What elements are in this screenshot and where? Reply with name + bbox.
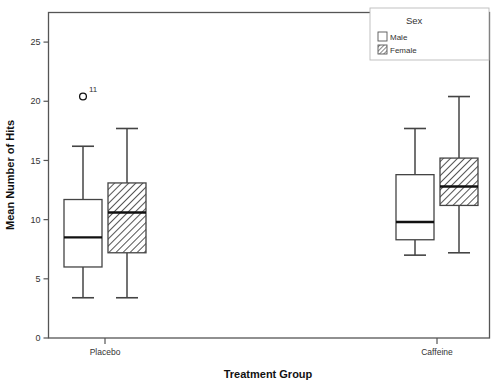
y-tick-label: 15	[30, 156, 40, 166]
box-body	[108, 183, 146, 253]
x-tick-label-placebo: Placebo	[90, 347, 121, 357]
y-tick-label: 5	[35, 274, 40, 284]
legend-label-female: Female	[390, 46, 417, 55]
boxplot-chart: 0510152025 PlaceboCaffeine 11 SexMaleFem…	[0, 0, 499, 388]
y-tick-label: 25	[30, 37, 40, 47]
outlier-label: 11	[89, 85, 98, 94]
y-axis: 0510152025	[30, 37, 48, 343]
y-axis-title: Mean Number of Hits	[4, 120, 16, 230]
x-axis: PlaceboCaffeine	[90, 338, 453, 357]
box-body	[396, 175, 434, 240]
y-tick-label: 10	[30, 215, 40, 225]
y-tick-label: 0	[35, 333, 40, 343]
box-body	[440, 158, 478, 205]
legend-swatch-male	[378, 32, 387, 41]
legend: SexMaleFemale	[370, 8, 489, 60]
y-tick-label: 20	[30, 96, 40, 106]
x-axis-title: Treatment Group	[224, 368, 313, 380]
legend-box	[370, 8, 489, 60]
legend-title: Sex	[406, 15, 423, 26]
legend-swatch-female	[378, 45, 387, 54]
legend-label-male: Male	[390, 33, 408, 42]
x-tick-label-caffeine: Caffeine	[421, 347, 453, 357]
chart-canvas: 0510152025 PlaceboCaffeine 11 SexMaleFem…	[0, 0, 499, 388]
box-body	[64, 200, 102, 267]
